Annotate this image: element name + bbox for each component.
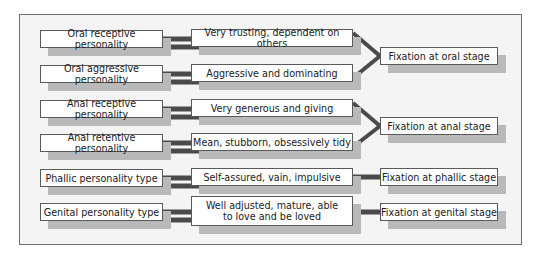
trait-box-oral-aggressive: Aggressive and dominating [191, 64, 353, 82]
trait-box-oral-receptive: Very trusting, dependent on others [191, 29, 353, 47]
personality-box-anal-receptive: Anal receptive personality [40, 100, 163, 118]
personality-box-anal-retentive: Anal retentive personality [40, 134, 163, 152]
trait-box-anal-receptive: Very generous and giving [191, 99, 353, 117]
fixation-box-phallic: Fixation at phallic stage [380, 168, 498, 186]
personality-box-genital: Genital personality type [40, 203, 163, 221]
fixation-box-oral: Fixation at oral stage [380, 47, 498, 65]
personality-box-oral-receptive: Oral receptive personality [40, 30, 163, 48]
personality-box-phallic: Phallic personality type [40, 169, 163, 187]
fixation-box-anal: Fixation at anal stage [380, 117, 498, 135]
trait-box-genital: Well adjusted, mature, able to love and … [191, 196, 353, 226]
fixation-box-genital: Fixation at genital stage [380, 203, 498, 221]
trait-box-phallic: Self-assured, vain, impulsive [191, 168, 353, 186]
trait-box-anal-retentive: Mean, stubborn, obsessively tidy [191, 133, 353, 151]
personality-box-oral-aggressive: Oral aggressive personality [40, 65, 163, 83]
